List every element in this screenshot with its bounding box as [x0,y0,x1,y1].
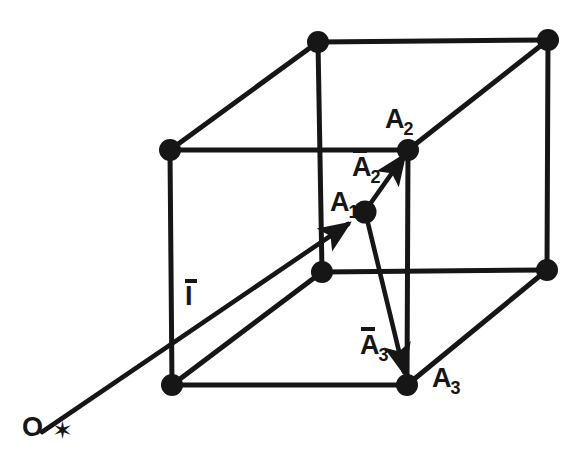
label-vector-a2: A2 [352,154,382,181]
label-origin: O [22,414,43,441]
label-point-a2: A2 [385,106,415,133]
cube-vector-diagram: A1 A2 A3 A2 A3 I O ✶ [0,0,582,465]
label-vector-i-letter: I [185,281,193,311]
label-point-a3-subscript: 3 [451,378,461,398]
origin-star-icon: ✶ [52,418,73,443]
vertex-dot-back-bottom-right [536,259,558,281]
label-point-a2-subscript: 2 [404,119,414,139]
vertex-dot-back-top-left [307,31,329,53]
vertex-dot-back-top-right [537,29,559,51]
label-vector-i-overbar-group: I [185,283,193,310]
overbar-icon [361,327,375,331]
vertex-dot-front-bottom-left [161,374,183,396]
edge-front-right-vertical [407,150,408,385]
edge-connect-top-right [408,40,548,150]
label-vector-a3-overbar-group: A [360,332,380,359]
edge-back-top-horizontal [318,40,548,42]
label-vector-a2-overbar-group: A [352,154,372,181]
label-point-a1-subscript: 1 [349,202,359,222]
label-vector-a3-letter: A [360,330,380,360]
vertex-dot-front-top-left [159,139,181,161]
edge-front-left-vertical [170,150,172,385]
edge-connect-bottom-right [407,270,547,385]
label-vector-a2-subscript: 2 [371,167,381,187]
label-point-a1-letter: A [330,187,350,217]
edge-back-right-vertical [547,40,548,270]
vertex-dot-front-top-right [397,139,419,161]
edge-back-bottom-horizontal [322,270,547,272]
label-vector-a3: A3 [360,332,390,359]
vertex-dot-back-bottom-left [311,261,333,283]
edge-back-left-vertical [318,42,322,272]
label-point-a3-letter: A [432,363,452,393]
label-vector-a3-subscript: 3 [379,345,389,365]
vector-I-arrow [42,224,348,432]
overbar-icon [185,279,197,283]
diagram-canvas [0,0,582,465]
overbar-icon [353,149,367,153]
edge-connect-top-left [170,42,318,150]
label-vector-a2-letter: A [352,152,372,182]
label-point-a1: A1 [330,189,360,216]
label-point-a3: A3 [432,365,462,392]
label-vector-i: I [185,283,193,310]
label-point-a2-letter: A [385,104,405,134]
vertex-dot-front-bottom-right [396,374,418,396]
